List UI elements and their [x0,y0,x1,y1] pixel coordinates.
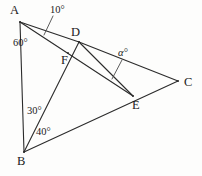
angle-60-label: 60° [13,38,28,49]
vertex-dot-b [23,151,25,153]
figure-canvas [0,0,202,176]
leader-lines-group [44,16,122,79]
vertex-dot-c [177,80,179,82]
angle-alpha-label: α° [118,48,128,59]
segment-B-D [24,42,79,152]
leader-alpha [112,60,122,79]
vertex-label-c: C [184,76,192,89]
angle-40-label: 40° [36,127,51,138]
vertex-dot-e [132,95,134,97]
vertex-label-b: B [17,155,25,168]
vertex-label-e: E [132,99,140,112]
angle-30-label: 30° [27,106,42,117]
vertex-label-d: D [71,26,80,39]
angle-10-label: 10° [50,5,65,16]
segment-B-C [24,81,178,152]
vertex-dot-a [19,21,21,23]
vertex-label-a: A [10,4,19,17]
geometry-figure: ABCDEF10°60°α°30°40° [0,0,202,176]
vertex-label-f: F [61,54,68,67]
vertex-dot-d [78,41,80,43]
segment-D-C [79,42,178,81]
